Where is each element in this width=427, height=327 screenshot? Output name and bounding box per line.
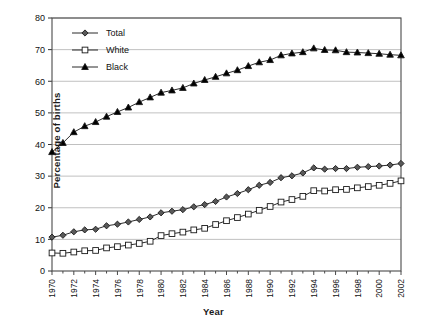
data-point-marker xyxy=(49,250,55,256)
data-point-marker xyxy=(147,214,153,220)
x-axis-title: Year xyxy=(0,306,427,317)
data-point-marker xyxy=(125,104,132,110)
data-point-marker xyxy=(71,249,77,255)
x-axis-tick-label: 1982 xyxy=(178,279,188,298)
data-point-marker xyxy=(104,245,110,251)
data-point-marker xyxy=(60,250,66,256)
x-axis-tick-label: 1974 xyxy=(91,279,101,298)
data-point-marker xyxy=(125,219,131,225)
data-point-marker xyxy=(256,207,262,213)
data-point-marker xyxy=(365,164,371,170)
data-point-marker xyxy=(387,162,393,168)
x-axis-tick-label: 1980 xyxy=(156,279,166,298)
data-point-marker xyxy=(125,242,131,248)
data-point-marker xyxy=(289,197,295,203)
data-point-marker xyxy=(322,166,328,172)
data-point-marker xyxy=(311,165,317,171)
data-point-marker xyxy=(354,164,360,170)
data-point-marker xyxy=(82,248,88,254)
y-axis-tick-label: 10 xyxy=(35,235,45,245)
data-point-marker xyxy=(158,233,164,239)
series-line xyxy=(52,48,401,152)
data-point-marker xyxy=(322,188,328,194)
data-point-marker xyxy=(82,227,88,233)
data-point-marker xyxy=(398,160,404,166)
series-black xyxy=(49,45,405,155)
data-point-marker xyxy=(333,187,339,193)
data-point-marker xyxy=(300,194,306,200)
data-point-marker xyxy=(278,199,284,205)
x-axis-tick-label: 1990 xyxy=(265,279,275,298)
y-axis-tick-label: 80 xyxy=(35,13,45,23)
data-point-marker xyxy=(376,163,382,169)
y-axis-tick-label: 70 xyxy=(35,45,45,55)
data-point-marker xyxy=(267,179,273,185)
data-point-marker xyxy=(136,216,142,222)
data-point-marker xyxy=(278,175,284,181)
y-axis-tick-label: 30 xyxy=(35,171,45,181)
y-axis-tick-label: 40 xyxy=(35,140,45,150)
x-axis-tick-label: 1976 xyxy=(113,279,123,298)
data-point-marker xyxy=(300,170,306,176)
data-point-marker xyxy=(332,165,338,171)
data-point-marker xyxy=(169,208,175,214)
data-point-marker xyxy=(343,165,349,171)
x-axis-tick-label: 1972 xyxy=(69,279,79,298)
data-point-marker xyxy=(224,218,230,224)
x-axis-tick-label: 1978 xyxy=(135,279,145,298)
data-point-marker xyxy=(82,47,88,53)
data-point-marker xyxy=(235,215,241,221)
data-point-marker xyxy=(103,223,109,229)
data-point-marker xyxy=(223,194,229,200)
data-point-marker xyxy=(82,30,88,36)
data-point-marker xyxy=(376,182,382,188)
data-point-marker xyxy=(202,201,208,207)
data-point-marker xyxy=(158,210,164,216)
series-white xyxy=(49,178,404,256)
data-point-marker xyxy=(93,248,99,254)
data-point-marker xyxy=(202,225,208,231)
data-point-marker xyxy=(245,211,251,217)
y-axis-tick-label: 20 xyxy=(35,203,45,213)
legend-label-white: White xyxy=(106,45,129,55)
gridlines xyxy=(52,18,401,239)
data-point-marker xyxy=(355,185,361,191)
data-point-marker xyxy=(191,204,197,210)
y-axis-title: Percentage of births xyxy=(51,41,62,241)
legend-label-total: Total xyxy=(106,28,125,38)
data-point-marker xyxy=(212,198,218,204)
x-axis-tick-label: 1994 xyxy=(309,279,319,298)
x-axis-tick-label: 1984 xyxy=(200,279,210,298)
data-point-marker xyxy=(93,226,99,232)
data-point-marker xyxy=(115,244,121,250)
x-axis-tick-label: 1986 xyxy=(222,279,232,298)
y-axis-tick-label: 60 xyxy=(35,77,45,87)
data-point-marker xyxy=(310,45,317,51)
x-axis: 1970197219741976197819801982198419861988… xyxy=(47,271,406,298)
data-point-marker xyxy=(180,229,186,235)
chart-legend: TotalWhiteBlack xyxy=(72,28,129,72)
x-axis-tick-label: 1998 xyxy=(353,279,363,298)
data-point-marker xyxy=(169,231,175,237)
y-axis-tick-label: 50 xyxy=(35,108,45,118)
y-axis-title-container: Percentage of births xyxy=(0,20,22,270)
data-point-marker xyxy=(71,129,78,135)
data-point-marker xyxy=(289,173,295,179)
data-point-marker xyxy=(147,238,153,244)
series-total xyxy=(49,160,404,240)
data-point-marker xyxy=(136,241,142,247)
x-axis-tick-label: 1992 xyxy=(287,279,297,298)
data-point-marker xyxy=(256,182,262,188)
data-point-marker xyxy=(365,184,371,190)
data-point-marker xyxy=(213,222,219,228)
x-axis-tick-label: 2000 xyxy=(374,279,384,298)
legend-label-black: Black xyxy=(106,62,129,72)
x-axis-tick-label: 1996 xyxy=(331,279,341,298)
data-point-marker xyxy=(311,188,317,194)
data-point-marker xyxy=(267,204,273,210)
y-axis-tick-label: 0 xyxy=(40,266,45,276)
data-point-marker xyxy=(71,229,77,235)
data-series xyxy=(49,45,405,256)
chart-figure: Percentage of births Year 01020304050607… xyxy=(0,0,427,327)
data-point-marker xyxy=(344,187,350,193)
